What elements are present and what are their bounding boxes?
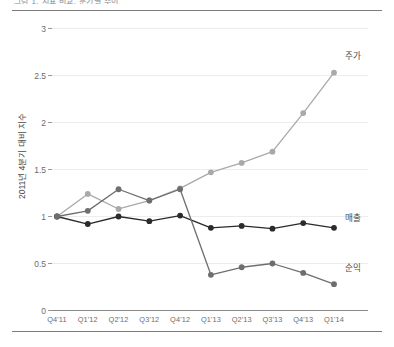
data-point	[300, 220, 306, 226]
data-point	[177, 213, 183, 219]
series-line	[57, 73, 334, 217]
data-point	[239, 264, 245, 270]
y-tick-label: 0	[20, 306, 46, 316]
data-point	[239, 160, 245, 166]
plot-area	[0, 0, 394, 347]
series-line	[57, 189, 334, 284]
data-point	[177, 186, 183, 192]
data-point	[116, 214, 122, 220]
x-tick-label: Q1'13	[201, 315, 221, 324]
data-point	[146, 218, 152, 224]
x-tick-label: Q3'13	[262, 315, 282, 324]
data-point	[116, 186, 122, 192]
x-tick-label: Q2'13	[232, 315, 252, 324]
data-point	[208, 225, 214, 231]
chart-svg	[0, 0, 394, 347]
data-point	[116, 206, 122, 212]
data-point	[331, 281, 337, 287]
data-point	[331, 225, 337, 231]
data-point	[208, 272, 214, 278]
x-tick-label: Q4'11	[47, 315, 66, 324]
y-axis-label: 2011년 4분기 대비 지수	[15, 96, 27, 216]
x-tick-label: Q4'12	[170, 315, 190, 324]
data-point	[54, 214, 60, 220]
data-point	[300, 110, 306, 116]
data-point	[331, 70, 337, 76]
x-tick-label: Q4'13	[293, 315, 313, 324]
series-label: 주가	[345, 49, 361, 61]
data-point	[270, 226, 276, 232]
series-line	[57, 216, 334, 229]
data-point	[85, 221, 91, 227]
y-tick-label: 0.5	[20, 259, 46, 269]
x-tick-label: Q3'12	[139, 315, 159, 324]
x-tick-label: Q2'12	[109, 315, 129, 324]
data-point	[300, 270, 306, 276]
data-point	[146, 198, 152, 204]
x-tick-label: Q1'12	[78, 315, 98, 324]
series-label: 순익	[345, 261, 361, 273]
y-tick-label: 2.5	[20, 71, 46, 81]
data-point	[270, 149, 276, 155]
chart-figure: 그림 1. 지표 비교, 분기별 추이 00.511.522.53 2011년 …	[0, 0, 394, 347]
x-tick-label: Q1'14	[324, 315, 344, 324]
data-point	[85, 208, 91, 214]
data-point	[85, 191, 91, 197]
data-point	[270, 261, 276, 267]
series-label: 매출	[345, 211, 361, 223]
data-point	[239, 223, 245, 229]
data-point	[208, 169, 214, 175]
y-tick-label: 3	[20, 24, 46, 34]
